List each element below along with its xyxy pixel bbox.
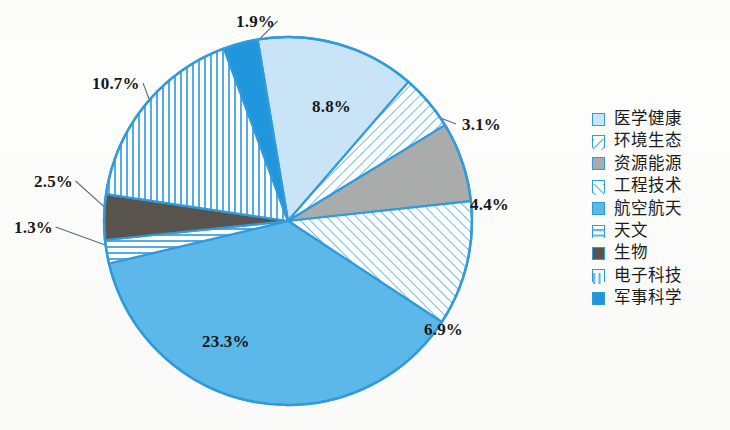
slice-value-label: 6.9% xyxy=(424,320,463,340)
legend-item[interactable]: 电子科技 xyxy=(592,265,730,287)
legend-item[interactable]: 资源能源 xyxy=(592,153,730,175)
legend-item-label: 航空航天 xyxy=(614,201,682,218)
slice-value-label: 1.9% xyxy=(236,12,275,32)
legend-swatch-icon xyxy=(592,113,605,126)
legend-item[interactable]: 医学健康 xyxy=(592,108,730,130)
legend-item-label: 生物 xyxy=(614,245,648,262)
legend-item[interactable]: 工程技术 xyxy=(592,175,730,197)
slice-value-label: 4.4% xyxy=(470,195,509,215)
legend-item-label: 工程技术 xyxy=(614,178,682,195)
legend-item[interactable]: 环境生态 xyxy=(592,130,730,152)
legend-item-label: 资源能源 xyxy=(614,156,682,173)
legend-item-label: 电子科技 xyxy=(614,268,682,285)
legend-item-label: 环境生态 xyxy=(614,133,682,150)
slice-value-label: 1.3% xyxy=(14,218,53,238)
legend-item-label: 天文 xyxy=(614,223,648,240)
slice-value-label: 10.7% xyxy=(92,74,140,94)
legend-swatch-icon xyxy=(592,269,605,282)
legend-swatch-icon xyxy=(592,202,605,215)
legend-item-label: 医学健康 xyxy=(614,111,682,128)
legend-item[interactable]: 军事科学 xyxy=(592,287,730,309)
slice-value-label: 2.5% xyxy=(34,172,73,192)
legend-swatch-icon xyxy=(592,292,605,305)
legend-item[interactable]: 天文 xyxy=(592,220,730,242)
legend-swatch-icon xyxy=(592,157,605,170)
pie-chart: 8.8%3.1%4.4%6.9%23.3%1.3%2.5%10.7%1.9% 医… xyxy=(0,0,730,430)
legend-item[interactable]: 生物 xyxy=(592,242,730,264)
legend-item[interactable]: 航空航天 xyxy=(592,198,730,220)
legend-swatch-icon xyxy=(592,247,605,260)
slice-value-label: 3.1% xyxy=(462,115,501,135)
chart-legend: 医学健康环境生态资源能源工程技术航空航天天文生物电子科技军事科学 xyxy=(592,108,730,310)
legend-swatch-icon xyxy=(592,225,605,238)
legend-item-label: 军事科学 xyxy=(614,290,682,307)
slice-value-label: 23.3% xyxy=(202,332,250,352)
slice-value-label: 8.8% xyxy=(312,97,351,117)
pie-slices xyxy=(104,37,472,405)
legend-swatch-icon xyxy=(592,135,605,148)
legend-swatch-icon xyxy=(592,180,605,193)
